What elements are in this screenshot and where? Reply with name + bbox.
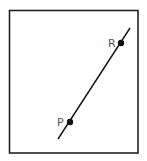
frame-border [10,11,139,154]
diagram-canvas: P R [0,0,147,161]
point-p-dot [67,119,73,125]
point-r-label: R [108,37,116,50]
point-p-label: P [57,116,64,129]
point-r-dot [118,40,124,46]
